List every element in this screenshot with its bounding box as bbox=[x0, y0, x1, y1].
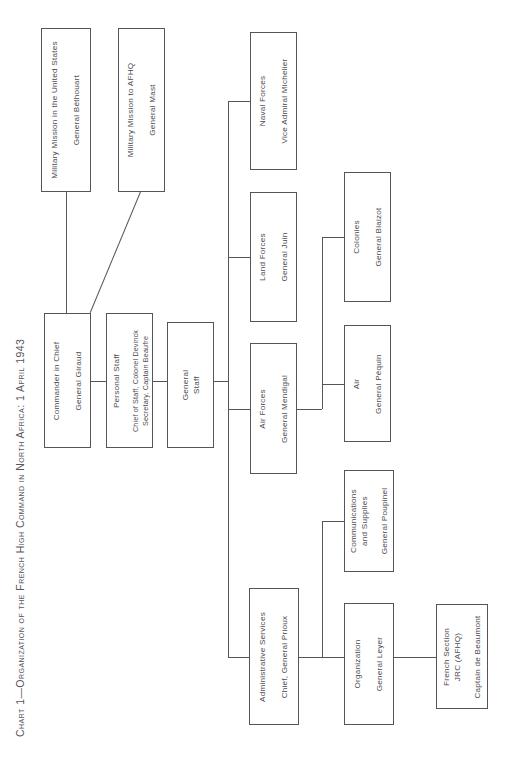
node-unit-label: Military Mission to AFHQ bbox=[125, 63, 136, 158]
edge-cinc-to-mission-us bbox=[66, 192, 67, 313]
node-detail-2: Secretary, Captain Beaufre bbox=[140, 330, 149, 432]
edge-personal-staff-to-general-staff bbox=[153, 381, 167, 382]
node-commander-label: General Poupinel bbox=[379, 488, 390, 555]
node-commander-in-chief[interactable]: Commander in Chief General Giraud bbox=[44, 313, 91, 448]
node-unit-label: Air Forces bbox=[257, 375, 268, 443]
node-unit-label: Land Forces bbox=[257, 233, 268, 282]
edge-trunk-to-administrative-services bbox=[228, 657, 249, 658]
edge-cinc-to-personal-staff bbox=[91, 381, 106, 382]
node-unit-label: Colonies bbox=[351, 207, 362, 266]
node-land-forces[interactable]: Land Forces General Juin bbox=[250, 192, 297, 322]
node-detail-1: Chief of Staff, Colonel Devinck bbox=[130, 330, 139, 432]
node-unit-label: Personal Staff bbox=[110, 330, 121, 432]
node-unit-label: Air bbox=[351, 354, 362, 414]
node-military-mission-united-states[interactable]: Military Mission in the United States Ge… bbox=[41, 28, 91, 192]
node-colonies[interactable]: Colonies General Blaizot bbox=[344, 172, 391, 302]
node-naval-forces[interactable]: Naval Forces Vice Admiral Michelier bbox=[250, 32, 297, 170]
node-unit-label-line1: General bbox=[179, 370, 190, 401]
node-commander-label: General Béthouart bbox=[72, 41, 83, 178]
node-commander-label: General Giraud bbox=[73, 341, 84, 420]
edge-trunk-to-land-forces bbox=[228, 257, 250, 258]
page-title: Chart 1—Organization of the French High … bbox=[0, 0, 40, 763]
node-air-forces[interactable]: Air Forces General Mendigal bbox=[250, 343, 297, 474]
node-unit-label: Naval Forces bbox=[257, 59, 268, 144]
node-commander-label: Vice Admiral Michelier bbox=[279, 59, 290, 144]
node-commander-label: General Mast bbox=[147, 63, 158, 158]
node-commander-label: General Péquin bbox=[373, 354, 384, 414]
node-unit-label: Military Mission in the United States bbox=[49, 41, 60, 178]
node-unit-label: Administrative Services bbox=[257, 612, 268, 702]
node-unit-label: Organization bbox=[352, 637, 363, 692]
node-personal-staff[interactable]: Personal Staff Chief of Staff, Colonel D… bbox=[106, 313, 153, 448]
edge-admin-sub-trunk bbox=[322, 521, 323, 657]
node-unit-label-line2: Staff bbox=[191, 370, 202, 401]
node-general-staff[interactable]: General Staff bbox=[167, 322, 214, 448]
edge-air-forces-substem bbox=[297, 409, 322, 410]
node-commander-label: Captain de Beaumont bbox=[472, 615, 483, 698]
edge-subtrunk-to-organization bbox=[322, 657, 344, 658]
node-military-mission-afhq[interactable]: Military Mission to AFHQ General Mast bbox=[118, 28, 165, 192]
node-unit-label-line1: French Section bbox=[441, 615, 452, 698]
edge-subtrunk-to-air bbox=[322, 384, 344, 385]
chart-sheet: Chart 1—Organization of the French High … bbox=[0, 0, 507, 763]
edge-organization-to-french-section bbox=[394, 657, 436, 658]
node-unit-label-line2: and Supplies bbox=[359, 488, 370, 555]
node-unit-label: Commander in Chief bbox=[51, 341, 62, 420]
page-title-text: Chart 1—Organization of the French High … bbox=[14, 339, 26, 737]
node-communications-and-supplies[interactable]: Communications and Supplies General Poup… bbox=[344, 470, 394, 572]
node-commander-label: General Blaizot bbox=[373, 207, 384, 266]
node-commander-label: General Leyer bbox=[375, 637, 386, 692]
node-administrative-services[interactable]: Administrative Services Chief, General P… bbox=[249, 588, 299, 725]
node-french-section-jrc-afhq[interactable]: French Section JRC (AFHQ) Captain de Bea… bbox=[436, 604, 488, 709]
node-commander-label: Chief, General Prioux bbox=[280, 612, 291, 702]
node-organization[interactable]: Organization General Leyer bbox=[344, 603, 394, 725]
edge-main-trunk bbox=[228, 101, 229, 658]
node-unit-label-line1: Communications bbox=[348, 488, 359, 555]
edge-general-staff-stem bbox=[214, 381, 228, 382]
node-commander-label: General Mendigal bbox=[279, 375, 290, 443]
edge-subtrunk-to-colonies bbox=[322, 237, 344, 238]
edge-trunk-to-naval-forces bbox=[228, 101, 250, 102]
node-commander-label: General Juin bbox=[279, 233, 290, 282]
node-unit-label-line2: JRC (AFHQ) bbox=[452, 615, 463, 698]
edge-cinc-to-mission-afhq bbox=[90, 192, 141, 313]
node-air[interactable]: Air General Péquin bbox=[344, 325, 391, 442]
edge-subtrunk-to-communications bbox=[322, 521, 344, 522]
edge-trunk-to-air-forces bbox=[228, 409, 250, 410]
edge-admin-substem bbox=[299, 657, 322, 658]
